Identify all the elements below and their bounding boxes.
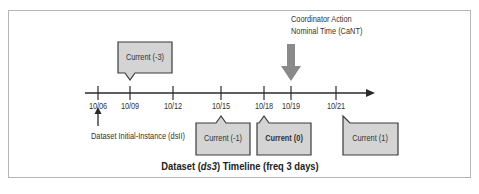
callout-label: Current (1) (352, 133, 388, 143)
tick-label: 10/18 (255, 101, 273, 111)
callout-label: Current (-3) (126, 52, 164, 62)
tick-label: 10/19 (282, 101, 300, 111)
initial-instance-label: Dataset Initial-Instance (dsII) (91, 131, 185, 141)
caption-prefix: Dataset ( (161, 160, 200, 172)
callout-label: Current (-1) (204, 133, 242, 143)
axis-arrowhead-icon (366, 89, 375, 97)
tick-label: 10/09 (121, 101, 139, 111)
cant-arrow-shaft (287, 44, 295, 67)
caption-dataset: ds3 (201, 160, 217, 172)
arrow-down-icon (281, 66, 301, 81)
caption-suffix: ) Timeline (freq 3 days) (217, 160, 319, 172)
diagram-caption: Dataset (ds3) Timeline (freq 3 days) (161, 160, 318, 172)
tick-label: 10/15 (212, 101, 230, 111)
tick-label: 10/21 (327, 101, 345, 111)
callout-label: Current (0) (265, 133, 303, 143)
tick-label: 10/12 (164, 101, 182, 111)
tick-label: 10/06 (89, 101, 107, 111)
